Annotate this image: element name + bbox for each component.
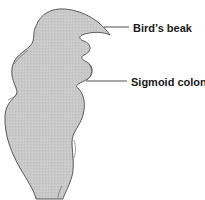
label-birds-beak: Bird’s beak [133, 22, 192, 34]
colon-shape [5, 9, 110, 199]
fold-line-right-lower [74, 140, 76, 158]
diagram-canvas: Bird’s beak Sigmoid colon [0, 0, 205, 200]
label-sigmoid-colon: Sigmoid colon [131, 76, 205, 88]
